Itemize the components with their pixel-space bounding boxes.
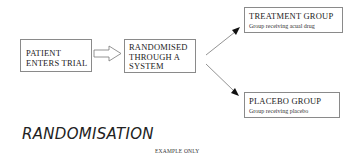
node-subtitle: Group receiving acual drug <box>249 22 342 30</box>
node-patient-enters-trial: PATIENT ENTERS TRIAL <box>20 39 92 72</box>
hollow-arrow-icon <box>94 46 121 61</box>
edge-to-placebo <box>206 64 234 91</box>
node-treatment-group: TREATMENT GROUP Group receiving acual dr… <box>244 7 343 33</box>
node-placebo-group: PLACEBO GROUP Group receiving placebo <box>244 92 340 118</box>
edge-to-treatment <box>206 32 235 55</box>
diagram-title: RANDOMISATION <box>22 125 154 143</box>
footnote: EXAMPLE ONLY <box>155 148 199 154</box>
node-label-line: SYSTEM <box>129 62 195 72</box>
node-subtitle: Group receiving placebo <box>249 107 339 115</box>
node-title: PLACEBO GROUP <box>249 97 339 107</box>
node-randomised-through-system: RANDOMISED THROUGH A SYSTEM <box>124 39 196 73</box>
node-title: TREATMENT GROUP <box>249 12 342 22</box>
node-label-line: ENTERS TRIAL <box>26 59 91 69</box>
